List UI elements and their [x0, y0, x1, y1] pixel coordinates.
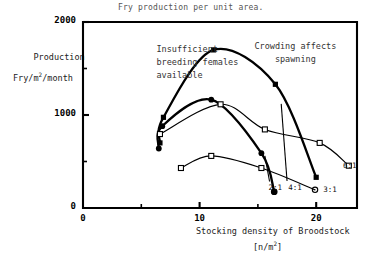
x-tick-label: 0	[68, 214, 98, 223]
series-label-2-1: 2:1	[268, 184, 282, 192]
curve-2-1	[157, 99, 274, 192]
marker-filled-square	[161, 115, 166, 120]
left-annotation-line2: breeding females	[156, 58, 251, 67]
marker-filled-square	[157, 140, 162, 145]
x-tick-label: 10	[185, 214, 215, 223]
marker-open-square	[262, 127, 267, 132]
marker-open-square	[209, 153, 214, 158]
left-annotation-line3: available	[156, 71, 251, 80]
leader-line	[281, 104, 287, 181]
left-annotation: Insufficientbreeding femalesavailable	[156, 45, 251, 80]
marker-filled-square	[273, 82, 278, 87]
marker-open-square	[178, 166, 183, 171]
marker-filled-circle	[208, 97, 214, 103]
y-tick-label: 0	[36, 202, 76, 211]
marker-open-square	[157, 132, 162, 137]
marker-filled-square	[314, 175, 319, 180]
plot-area	[0, 0, 369, 267]
marker-open-square	[218, 102, 223, 107]
marker-open-square	[259, 166, 264, 171]
x-tick-label: 20	[301, 214, 331, 223]
marker-filled-circle	[258, 150, 264, 156]
series-label-3-1: 3:1	[323, 186, 337, 194]
right-annotation-line1: Crowding affects	[254, 41, 336, 51]
right-annotation: Crowding affectsspawning	[248, 42, 343, 64]
marker-open-square	[317, 140, 322, 145]
series-label-6-1: 6:1	[343, 162, 357, 170]
y-tick-label: 1000	[36, 109, 76, 118]
left-annotation-line1: Insufficient	[156, 44, 217, 54]
y-tick-label: 2000	[36, 16, 76, 25]
right-annotation-line2: spawning	[248, 55, 343, 64]
marker-filled-circle	[156, 146, 162, 152]
series-label-4-1: 4:1	[288, 184, 302, 192]
marker-filled-circle	[159, 123, 165, 129]
fry-production-chart: Fry production per unit area. Production…	[0, 0, 369, 267]
curve-6-1	[160, 104, 349, 165]
